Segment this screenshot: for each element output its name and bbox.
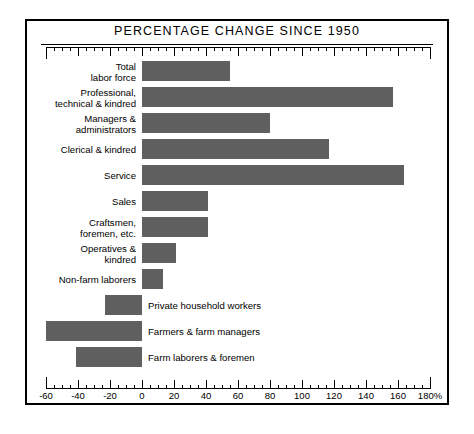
chart-bar bbox=[142, 217, 208, 237]
axis-tick-minor bbox=[214, 47, 215, 51]
chart-bar bbox=[142, 139, 329, 159]
axis-tick-major bbox=[398, 47, 399, 56]
axis-tick-minor bbox=[326, 385, 327, 389]
axis-tick-major bbox=[206, 47, 207, 56]
chart-bar-row: Farmers & farm managers bbox=[46, 321, 430, 341]
bottom-ruler-axis bbox=[46, 376, 430, 390]
axis-tick-minor bbox=[94, 385, 95, 389]
axis-tick-minor bbox=[326, 47, 327, 51]
axis-tick-label: 160 bbox=[390, 390, 406, 401]
chart-category-label: Service bbox=[104, 170, 136, 181]
axis-tick-major bbox=[238, 47, 239, 56]
chart-bar-row: Non-farm laborers bbox=[46, 269, 430, 289]
axis-tick-minor bbox=[222, 385, 223, 389]
axis-tick-minor bbox=[214, 385, 215, 389]
axis-tick-minor bbox=[390, 47, 391, 51]
axis-tick-major bbox=[142, 47, 143, 56]
chart-bar-row: Private household workers bbox=[46, 295, 430, 315]
axis-tick-minor bbox=[166, 47, 167, 51]
axis-tick-minor bbox=[358, 47, 359, 51]
axis-tick-major bbox=[398, 380, 399, 389]
axis-tick-minor bbox=[62, 385, 63, 389]
axis-tick-major bbox=[142, 380, 143, 389]
chart-category-label: Operatives & kindred bbox=[81, 243, 136, 265]
axis-tick-minor bbox=[246, 385, 247, 389]
axis-tick-minor bbox=[350, 385, 351, 389]
axis-tick-minor bbox=[422, 385, 423, 389]
axis-tick-major bbox=[270, 380, 271, 389]
axis-tick-major bbox=[302, 380, 303, 389]
axis-tick-minor bbox=[310, 385, 311, 389]
axis-tick-minor bbox=[318, 47, 319, 51]
axis-tick-minor bbox=[246, 47, 247, 51]
chart-bar-row: Craftsmen, foremen, etc. bbox=[46, 217, 430, 237]
chart-bar-row: Service bbox=[46, 165, 430, 185]
chart-category-label: Professional, technical & kindred bbox=[55, 87, 136, 109]
axis-tick-major bbox=[334, 380, 335, 389]
axis-tick-minor bbox=[54, 47, 55, 51]
axis-tick-minor bbox=[406, 47, 407, 51]
plot-area: Total labor forceProfessional, technical… bbox=[46, 61, 430, 373]
axis-tick-minor bbox=[294, 47, 295, 51]
axis-tick-major bbox=[78, 47, 79, 56]
axis-tick-major bbox=[46, 377, 47, 389]
chart-bar-row: Professional, technical & kindred bbox=[46, 87, 430, 107]
axis-tick-minor bbox=[382, 47, 383, 51]
chart-frame: PERCENTAGE CHANGE SINCE 1950 Total labor… bbox=[25, 19, 449, 405]
axis-tick-label: 100 bbox=[294, 390, 310, 401]
axis-tick-major bbox=[238, 380, 239, 389]
chart-bar-row: Farm laborers & foremen bbox=[46, 347, 430, 367]
axis-tick-minor bbox=[102, 47, 103, 51]
axis-tick-label: 120 bbox=[326, 390, 342, 401]
chart-bar bbox=[142, 269, 163, 289]
chart-bar-row: Operatives & kindred bbox=[46, 243, 430, 263]
axis-tick-minor bbox=[358, 385, 359, 389]
chart-category-label: Farmers & farm managers bbox=[148, 326, 260, 337]
axis-tick-label: 40 bbox=[201, 390, 212, 401]
axis-tick-minor bbox=[54, 385, 55, 389]
chart-bar-row: Clerical & kindred bbox=[46, 139, 430, 159]
axis-tick-minor bbox=[374, 47, 375, 51]
axis-tick-minor bbox=[230, 385, 231, 389]
axis-tick-label: 60 bbox=[233, 390, 244, 401]
axis-tick-major bbox=[206, 380, 207, 389]
axis-tick-minor bbox=[286, 47, 287, 51]
axis-tick-minor bbox=[86, 385, 87, 389]
axis-tick-major bbox=[110, 47, 111, 56]
axis-tick-minor bbox=[406, 385, 407, 389]
chart-bar bbox=[142, 191, 208, 211]
axis-tick-minor bbox=[182, 385, 183, 389]
axis-tick-minor bbox=[222, 47, 223, 51]
chart-bar bbox=[142, 165, 404, 185]
axis-tick-minor bbox=[278, 47, 279, 51]
axis-tick-minor bbox=[414, 385, 415, 389]
chart-bar bbox=[76, 347, 142, 367]
axis-tick-minor bbox=[318, 385, 319, 389]
axis-tick-minor bbox=[150, 47, 151, 51]
axis-tick-minor bbox=[126, 385, 127, 389]
axis-tick-major bbox=[366, 380, 367, 389]
axis-tick-major bbox=[78, 380, 79, 389]
axis-tick-minor bbox=[134, 385, 135, 389]
chart-bar bbox=[46, 321, 142, 341]
axis-tick-minor bbox=[198, 47, 199, 51]
axis-tick-label: 20 bbox=[169, 390, 180, 401]
chart-bar-row: Sales bbox=[46, 191, 430, 211]
chart-bar-row: Total labor force bbox=[46, 61, 430, 81]
chart-bar bbox=[142, 113, 270, 133]
chart-category-label: Private household workers bbox=[148, 300, 261, 311]
axis-tick-minor bbox=[278, 385, 279, 389]
axis-tick-minor bbox=[86, 47, 87, 51]
axis-tick-label: -40 bbox=[71, 390, 85, 401]
axis-tick-minor bbox=[390, 385, 391, 389]
axis-tick-label: -60 bbox=[39, 390, 53, 401]
chart-category-label: Total labor force bbox=[91, 61, 136, 83]
axis-tick-minor bbox=[374, 385, 375, 389]
axis-tick-minor bbox=[166, 385, 167, 389]
chart-category-label: Non-farm laborers bbox=[59, 274, 136, 285]
axis-tick-minor bbox=[342, 385, 343, 389]
axis-tick-minor bbox=[198, 385, 199, 389]
axis-tick-minor bbox=[190, 47, 191, 51]
axis-tick-minor bbox=[118, 385, 119, 389]
chart-bar bbox=[142, 243, 176, 263]
